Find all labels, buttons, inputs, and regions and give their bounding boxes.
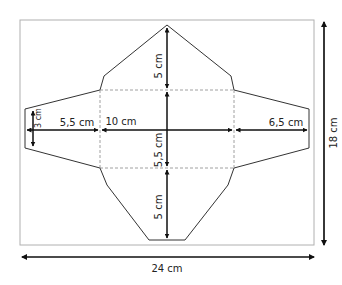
envelope-diagram: 5 cm 5,5 cm 5 cm 5,5 cm 10 cm 6,5 cm 3 c… (0, 0, 342, 285)
label-left-edge: 3 cm (34, 108, 43, 128)
label-bottom-flap: 5 cm (153, 195, 164, 220)
label-total-height: 18 cm (328, 117, 339, 148)
label-right-flap: 6,5 cm (269, 117, 303, 128)
label-center-height: 5,5 cm (153, 133, 164, 167)
label-center-width: 10 cm (105, 116, 136, 127)
label-left-flap: 5,5 cm (60, 117, 94, 128)
label-total-width: 24 cm (151, 263, 182, 274)
label-top-flap: 5 cm (153, 54, 164, 79)
